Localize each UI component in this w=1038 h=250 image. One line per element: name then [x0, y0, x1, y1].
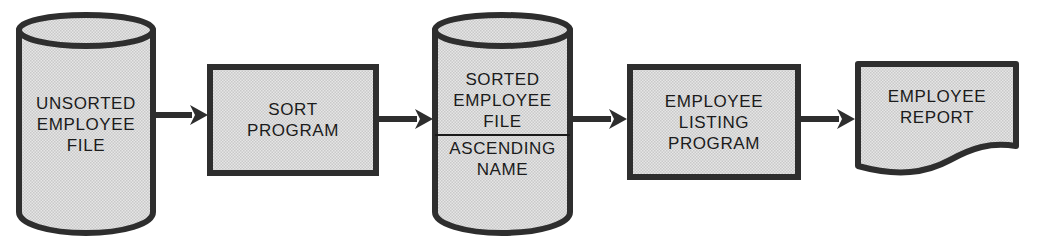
- arrow-1: [156, 105, 208, 125]
- unsorted-employee-file-shape[interactable]: [19, 15, 153, 233]
- flowchart-svg: [0, 0, 1038, 250]
- arrow-3: [573, 109, 627, 129]
- sort-program-shape[interactable]: [210, 67, 376, 173]
- arrow-4: [801, 109, 855, 129]
- sorted-employee-file-shape[interactable]: [435, 15, 570, 233]
- arrow-2: [379, 109, 433, 129]
- employee-report-shape[interactable]: [858, 64, 1016, 172]
- employee-listing-program-shape[interactable]: [630, 67, 798, 177]
- flowchart-canvas: UNSORTED EMPLOYEE FILE SORT PROGRAM SORT…: [0, 0, 1038, 250]
